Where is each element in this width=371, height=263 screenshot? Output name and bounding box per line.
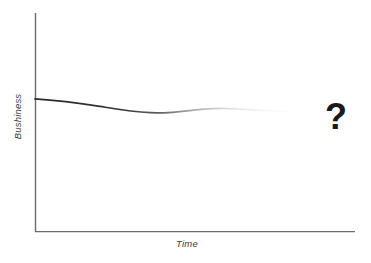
axis-lines bbox=[35, 13, 355, 232]
y-axis-label-text: Bushiness bbox=[13, 93, 24, 139]
data-series-bushiness bbox=[35, 99, 308, 113]
x-axis-label: Time bbox=[140, 238, 234, 249]
bushiness-line bbox=[35, 99, 308, 113]
chart-canvas bbox=[0, 0, 371, 263]
y-axis-label: Bushiness bbox=[0, 88, 36, 144]
chart-figure: Bushiness Time ? bbox=[0, 0, 371, 263]
question-mark-annotation: ? bbox=[322, 99, 350, 135]
